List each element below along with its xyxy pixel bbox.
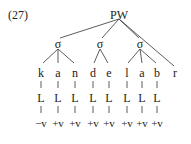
segment: n <box>72 67 78 79</box>
l-node: L <box>37 92 44 104</box>
syllable-node: σ <box>137 38 143 50</box>
syllable-node: σ <box>55 38 61 50</box>
segment: b <box>154 67 160 79</box>
voice-feature: +v <box>136 117 148 129</box>
voice-feature: +v <box>151 117 163 129</box>
l-node: L <box>89 92 96 104</box>
voice-feature: +v <box>87 117 99 129</box>
segment: a <box>55 67 60 79</box>
segment: r <box>173 67 177 79</box>
l-node: L <box>105 92 112 104</box>
l-node: L <box>123 92 130 104</box>
voice-feature: +v <box>121 117 133 129</box>
l-node: L <box>71 92 78 104</box>
voice-feature: +v <box>69 117 81 129</box>
syllable-node: σ <box>97 38 103 50</box>
segment: e <box>106 67 111 79</box>
segment: a <box>139 67 144 79</box>
l-node: L <box>54 92 61 104</box>
voice-feature: −v <box>35 117 47 129</box>
l-node: L <box>153 92 160 104</box>
root-node: PW <box>110 9 128 21</box>
voice-feature: +v <box>52 117 64 129</box>
l-node: L <box>138 92 145 104</box>
segment: d <box>90 67 96 79</box>
voice-feature: +v <box>103 117 115 129</box>
segment: l <box>125 67 128 79</box>
segment: k <box>38 67 44 79</box>
